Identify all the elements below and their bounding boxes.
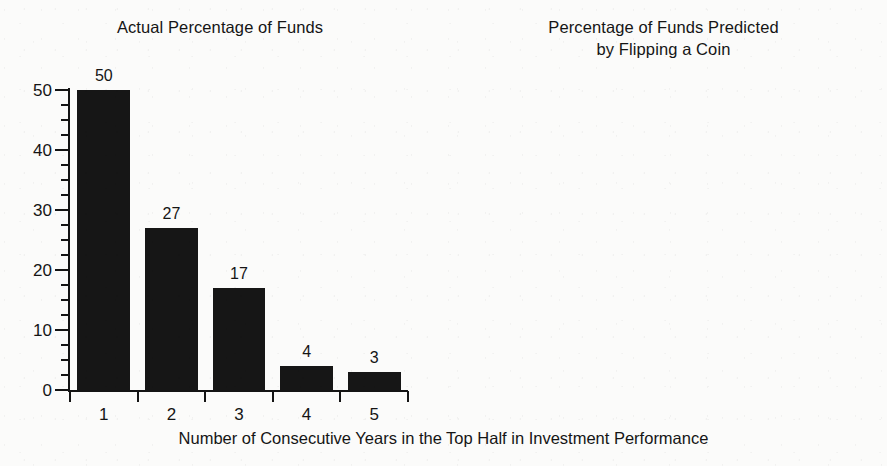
bar-value-label: 4 [302,344,311,360]
plot-area-left: 010203040505012721734435 [70,90,408,390]
y-tick-minor-left [61,299,68,301]
bar [77,90,130,390]
chart-panel-right: Percentage of Funds Predicted by Flippin… [440,0,887,420]
bar-value-label: 17 [230,266,248,282]
x-tick-label-left: 4 [302,406,311,423]
y-tick-minor-left [61,314,68,316]
y-tick-label-left: 0 [43,382,52,399]
bar [213,288,266,390]
y-tick-label-left: 50 [33,82,52,99]
y-tick-minor-left [61,164,68,166]
x-tick-left [407,391,409,402]
y-tick-label-left: 30 [33,202,52,219]
y-tick-major-left [55,89,68,91]
y-tick-minor-left [61,344,68,346]
x-tick-label-left: 1 [99,406,108,423]
chart-panel-left: Actual Percentage of Funds 0102030405050… [0,0,440,420]
y-tick-minor-left [61,284,68,286]
y-tick-minor-left [61,239,68,241]
bar [348,372,401,390]
x-tick-left [272,391,274,402]
y-tick-minor-left [61,359,68,361]
x-axis-line-left [68,390,408,392]
bar-value-label: 27 [162,206,180,222]
x-tick-label-left: 5 [369,406,378,423]
y-tick-minor-left [61,119,68,121]
y-tick-minor-left [61,179,68,181]
y-tick-minor-left [61,194,68,196]
y-tick-major-left [55,209,68,211]
x-axis-caption: Number of Consecutive Years in the Top H… [0,428,887,448]
x-tick-label-left: 2 [167,406,176,423]
chart-title-right: Percentage of Funds Predicted by Flippin… [440,16,887,60]
bar [280,366,333,390]
y-tick-label-left: 20 [33,262,52,279]
y-tick-label-left: 40 [33,142,52,159]
bar [145,228,198,390]
y-tick-minor-left [61,134,68,136]
y-tick-major-left [55,389,68,391]
y-tick-minor-left [61,254,68,256]
x-tick-left [69,391,71,402]
bar-value-label: 50 [95,68,113,84]
bar-value-label: 3 [370,350,379,366]
y-tick-minor-left [61,374,68,376]
x-tick-label-left: 3 [234,406,243,423]
y-tick-major-left [55,269,68,271]
x-tick-left [204,391,206,402]
y-tick-major-left [55,329,68,331]
chart-title-left: Actual Percentage of Funds [0,16,440,38]
x-tick-left [339,391,341,402]
x-tick-left [137,391,139,402]
y-axis-line-left [68,88,70,392]
y-tick-label-left: 10 [33,322,52,339]
y-tick-minor-left [61,104,68,106]
y-tick-minor-left [61,224,68,226]
figure-canvas: Actual Percentage of Funds 0102030405050… [0,0,887,466]
y-tick-major-left [55,149,68,151]
